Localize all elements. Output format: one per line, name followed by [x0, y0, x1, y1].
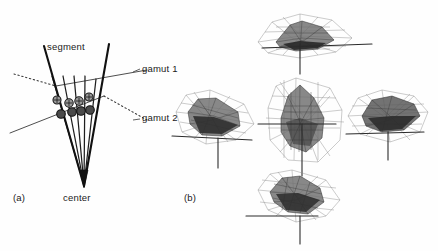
gamut-view-top	[258, 14, 372, 74]
label-center: center	[63, 192, 91, 203]
label-leaders	[133, 69, 140, 120]
panel-label-b: (b)	[184, 192, 196, 203]
sample-point	[77, 107, 86, 116]
label-segment: segment	[47, 41, 85, 52]
sample-point	[53, 96, 61, 104]
sample-point	[85, 93, 93, 101]
gamut1-boundary-line	[14, 70, 147, 86]
label-gamut-1: gamut 1	[142, 63, 178, 74]
gamut-solid	[362, 96, 420, 132]
gamut-view-bottom	[246, 170, 340, 244]
figure-root: segment gamut 1 gamut 2 center (a) (b)	[0, 0, 438, 251]
axis-lines	[346, 132, 424, 160]
axis-lines	[172, 136, 252, 168]
sample-point	[65, 99, 73, 107]
sample-point	[68, 108, 77, 117]
gamut-view-left	[172, 90, 254, 168]
gamut-solid	[188, 98, 240, 136]
label-gamut-2: gamut 2	[142, 112, 178, 123]
segment-ray-fan	[52, 76, 96, 185]
figure-canvas	[0, 0, 438, 251]
segment-boundary-thick-lines	[44, 44, 109, 186]
gamut-view-right	[346, 90, 428, 160]
gamut-view-center	[258, 78, 344, 176]
panel-a-graphic	[10, 44, 147, 188]
sample-point	[57, 110, 66, 119]
panel-label-a: (a)	[13, 192, 25, 203]
axis-lines	[246, 216, 318, 244]
sample-point	[86, 106, 95, 115]
sample-point	[75, 97, 83, 105]
